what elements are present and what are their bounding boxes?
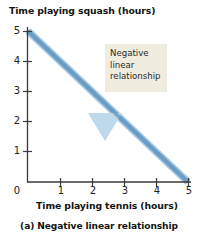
annotation-callout: Negative linear relationship: [105, 44, 167, 92]
figure-caption: (a)Negative linear relationship: [0, 221, 198, 231]
figure-caption-text: Negative linear relationship: [37, 221, 178, 231]
y-tick-label-4: 4: [4, 55, 20, 66]
x-tick-label-5: 5: [182, 185, 196, 196]
x-tick-label-3: 3: [118, 185, 132, 196]
y-tick-label-1: 1: [4, 145, 20, 156]
y-tick-label-5: 5: [4, 25, 20, 36]
plot-area: 5 4 3 2 1 0 1 2 3 4 5 Negative linear re…: [0, 0, 198, 200]
x-tick-label-1: 1: [54, 185, 68, 196]
plot-svg: [0, 0, 198, 200]
figure-negative-linear-relationship: Time playing squash (hours): [0, 0, 198, 236]
annotation-line-2: linear: [110, 60, 163, 72]
annotation-line-3: relationship: [110, 71, 163, 83]
direction-arrow-icon: [88, 113, 122, 141]
y-tick-label-2: 2: [4, 115, 20, 126]
y-tick-label-0: 0: [4, 185, 20, 196]
annotation-line-1: Negative: [110, 48, 163, 60]
x-tick-label-2: 2: [86, 185, 100, 196]
x-axis-title: Time playing tennis (hours): [0, 200, 198, 211]
figure-caption-index: (a): [20, 221, 34, 231]
y-tick-label-3: 3: [4, 85, 20, 96]
x-tick-label-4: 4: [150, 185, 164, 196]
